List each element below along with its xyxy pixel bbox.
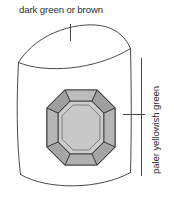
label-paler-yellowish-green: paler yellowish green [150, 86, 161, 174]
gem-facet-top [65, 90, 97, 101]
crystal-left-edge [17, 63, 20, 175]
gem-table-face [62, 105, 100, 150]
crystal-diagram-figure: dark green or brown paler yellowish gree… [0, 0, 174, 203]
crystal-drawing [0, 0, 174, 203]
gem-facet-right [104, 108, 115, 147]
label-dark-green-or-brown: dark green or brown [19, 4, 103, 15]
gem-facet-left [47, 108, 58, 147]
emerald-cut-gem [47, 90, 115, 165]
crystal-right-edge [131, 49, 132, 173]
crystal-top-rim [19, 49, 131, 69]
crystal-bottom-edge [21, 173, 131, 186]
gem-facet-bottom [65, 154, 97, 165]
